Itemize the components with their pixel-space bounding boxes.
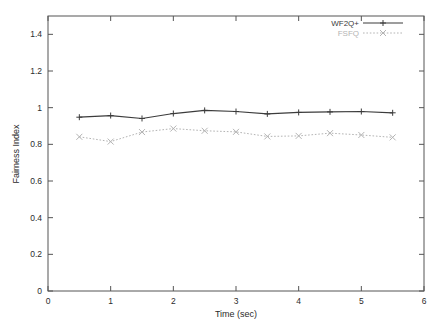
legend-label: FSFQ bbox=[338, 29, 359, 38]
y-tick-label: 0.6 bbox=[30, 176, 42, 186]
x-axis-title: Time (sec) bbox=[215, 309, 257, 319]
x-tick-label: 5 bbox=[359, 296, 364, 306]
y-tick-label: 1 bbox=[37, 103, 42, 113]
y-tick-label: 0.8 bbox=[30, 139, 42, 149]
x-tick-label: 1 bbox=[108, 296, 113, 306]
y-tick-label: 1.2 bbox=[30, 66, 42, 76]
y-tick-label: 0.4 bbox=[30, 213, 42, 223]
y-tick-label: 0.2 bbox=[30, 249, 42, 259]
x-tick-label: 0 bbox=[46, 296, 51, 306]
x-tick-label: 6 bbox=[422, 296, 427, 306]
x-tick-label: 4 bbox=[296, 296, 301, 306]
chart-background bbox=[0, 0, 438, 325]
y-tick-label: 1.4 bbox=[30, 29, 42, 39]
y-axis-title: Fairness Index bbox=[11, 124, 21, 184]
chart-figure: 00.20.40.60.811.21.4 0123456 WF2Q+FSFQ T… bbox=[0, 0, 438, 325]
x-tick-label: 2 bbox=[171, 296, 176, 306]
x-tick-label: 3 bbox=[234, 296, 239, 306]
fairness-index-line-chart: 00.20.40.60.811.21.4 0123456 WF2Q+FSFQ T… bbox=[0, 0, 438, 325]
y-tick-label: 0 bbox=[37, 286, 42, 296]
legend-label: WF2Q+ bbox=[331, 19, 359, 28]
